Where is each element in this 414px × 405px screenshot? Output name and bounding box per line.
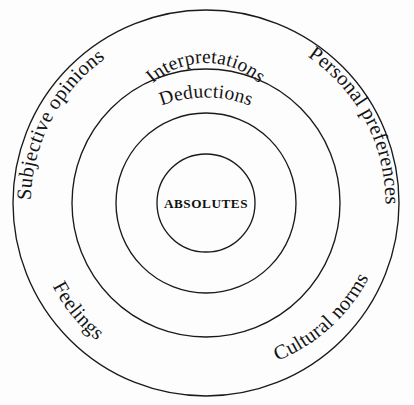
ring-label-personal-preferences-text: Personal preferences [305, 42, 403, 205]
diagram-root: Subjective opinions Personal preferences… [0, 0, 414, 405]
ring-label-deductions-text: Deductions [156, 80, 256, 109]
concentric-rings-diagram: Subjective opinions Personal preferences… [0, 0, 414, 405]
ring-label-cultural-norms-text: Cultural norms [270, 269, 372, 365]
ring-label-feelings-text: Feelings [49, 277, 109, 344]
ring-label-subjective-opinions-text: Subjective opinions [13, 44, 108, 201]
ring-label-deductions: Deductions [156, 80, 256, 109]
ring-label-subjective-opinions: Subjective opinions [13, 44, 108, 201]
center-label-absolutes: ABSOLUTES [164, 196, 248, 211]
ring-label-cultural-norms: Cultural norms [270, 269, 372, 365]
ring-label-feelings: Feelings [49, 277, 109, 344]
ring-label-personal-preferences: Personal preferences [305, 42, 403, 205]
